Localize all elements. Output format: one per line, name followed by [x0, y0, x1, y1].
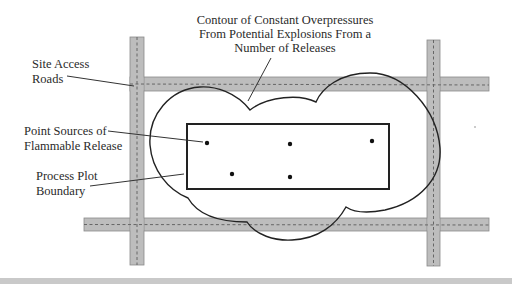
overpressure-contour: [150, 73, 440, 240]
roads-label-line-2: Roads: [32, 72, 63, 86]
explosion-overpressure-diagram: Contour of Constant Overpressures From P…: [0, 0, 512, 284]
contour-label-line-1: Contour of Constant Overpressures: [197, 13, 374, 27]
bottom-scan-band: [0, 278, 512, 284]
point-source: [288, 142, 292, 146]
contour-label-line-2: From Potential Explosions From a: [199, 27, 372, 41]
contour-label: Contour of Constant Overpressures From P…: [197, 13, 374, 55]
sources-label-line-1: Point Sources of: [24, 124, 107, 138]
leader-roads: [67, 76, 134, 86]
sources-label-line-2: Flammable Release: [24, 139, 123, 153]
roads-label-line-1: Site Access: [32, 57, 89, 71]
plot-label-line-1: Process Plot: [36, 169, 98, 183]
point-sources: [205, 139, 374, 179]
leader-sources: [108, 131, 203, 142]
site-access-roads: [84, 37, 489, 266]
contour-label-line-3: Number of Releases: [234, 41, 335, 55]
process-plot-boundary: [187, 124, 389, 189]
plot-label-line-2: Boundary: [36, 184, 86, 198]
point-source: [288, 175, 292, 179]
point-source: [205, 141, 209, 145]
stray-dot: [474, 126, 476, 128]
point-source: [230, 172, 234, 176]
point-source: [370, 139, 374, 143]
